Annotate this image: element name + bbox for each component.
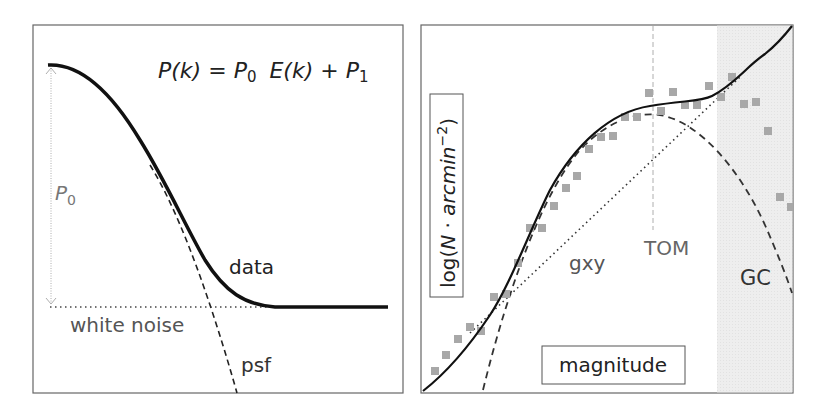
ylabel-box: log(N · arcmin−2) [430, 94, 463, 297]
xlabel: magnitude [559, 353, 667, 377]
right-panel: log(N · arcmin−2) magnitude gxy TOM GC [421, 25, 793, 393]
white-noise-label: white noise [70, 313, 184, 337]
gc-label: GC [740, 266, 771, 290]
equation: P(k) = P0 E(k) + P1 [158, 58, 369, 87]
figure: P(k) = P0 E(k) + P1 P0 data white noise … [0, 0, 824, 415]
xlabel-box: magnitude [542, 346, 685, 384]
data-label: data [229, 255, 274, 279]
left-panel: P(k) = P0 E(k) + P1 P0 data white noise … [33, 25, 403, 393]
tom-label: TOM [643, 236, 689, 260]
psf-label: psf [241, 353, 272, 377]
gxy-label: gxy [569, 251, 606, 275]
